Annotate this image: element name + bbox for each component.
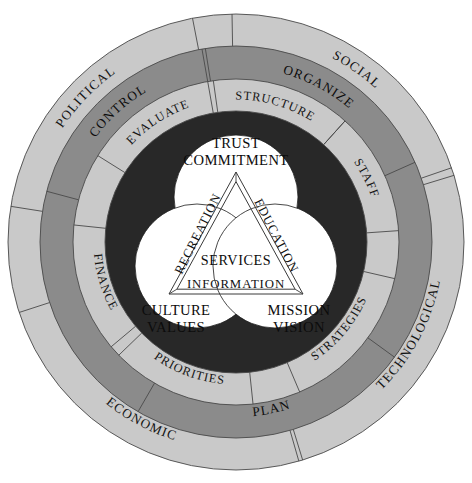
culture-circle-label: CULTUREVALUES: [142, 302, 211, 335]
wheel-svg: SOCIALTECHNOLOGICALECONOMICPOLITICALORGA…: [0, 0, 472, 483]
triangle-edge-label-information: INFORMATION: [187, 277, 285, 291]
strategic-planning-wheel-diagram: SOCIALTECHNOLOGICALECONOMICPOLITICALORGA…: [0, 0, 472, 483]
mission-circle-label: MISSIONVISION: [268, 302, 331, 335]
segment-divider: [232, 14, 233, 46]
triangle-center-label: SERVICES: [201, 252, 272, 268]
